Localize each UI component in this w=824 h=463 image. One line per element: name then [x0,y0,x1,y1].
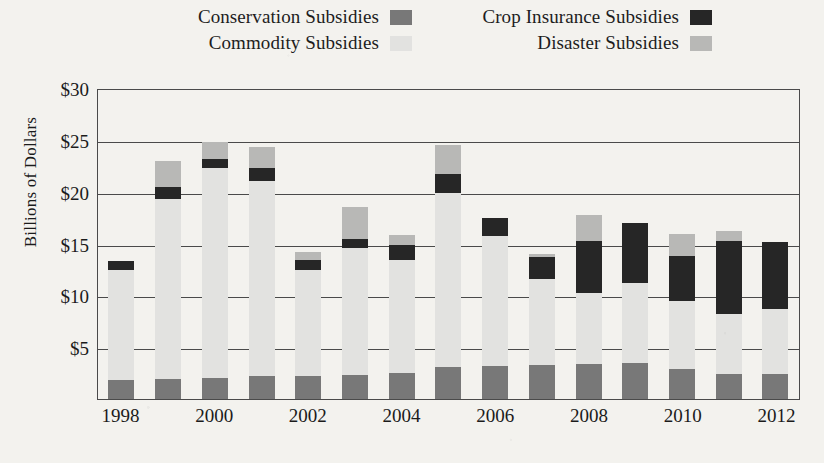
bar-2005 [435,145,461,399]
x-tick-label: 2006 [452,405,538,427]
bar-segment-2010-crop-insurance-subsidies [669,256,695,301]
bar-2011 [716,231,742,399]
bar-segment-2001-conservation-subsidies [249,376,275,399]
bar-segment-1999-disaster-subsidies [155,161,181,187]
legend-swatch-commodity [390,36,412,51]
bar-segment-2007-conservation-subsidies [529,365,555,399]
x-tick-2000: 2000 [201,405,227,435]
bar-segment-2008-crop-insurance-subsidies [576,241,602,293]
legend-item-conservation: Conservation Subsidies [112,6,412,28]
stacked-bar-chart: Conservation Subsidies Crop Insurance Su… [0,0,824,463]
bar-segment-2003-conservation-subsidies [342,375,368,399]
bar-segment-1999-crop-insurance-subsidies [155,187,181,199]
x-tick-label: 2010 [640,405,726,427]
bar-segment-2005-disaster-subsidies [435,145,461,174]
bar-segment-2010-commodity-subsidies [669,301,695,369]
bar-1999 [155,161,181,399]
bar-segment-2012-conservation-subsidies [762,374,788,399]
bar-segment-1998-commodity-subsidies [108,270,134,380]
bar-segment-2012-crop-insurance-subsidies [762,242,788,308]
bar-segment-2000-crop-insurance-subsidies [202,159,228,168]
bar-2006 [482,218,508,399]
x-tick-1998: 1998 [107,405,133,435]
bar-segment-2011-disaster-subsidies [716,231,742,241]
y-tick-label-10: $10 [29,287,89,306]
bar-segment-2000-commodity-subsidies [202,168,228,378]
x-tick-label: 2000 [171,405,257,427]
bar-segment-1999-conservation-subsidies [155,379,181,399]
bar-segment-2003-commodity-subsidies [342,248,368,376]
x-tick-2008: 2008 [576,405,602,435]
bar-segment-2008-disaster-subsidies [576,215,602,242]
bar-2012 [762,242,788,399]
bar-segment-2002-conservation-subsidies [295,376,321,399]
bar-segment-2011-crop-insurance-subsidies [716,241,742,314]
bar-segment-2011-commodity-subsidies [716,314,742,374]
bar-segment-2006-crop-insurance-subsidies [482,218,508,237]
y-tick-label-25: $25 [29,132,89,151]
legend-row-2: Commodity Subsidies Disaster Subsidies [0,30,824,56]
bar-segment-2008-commodity-subsidies [576,293,602,363]
bar-segment-2012-commodity-subsidies [762,309,788,374]
bar-2004 [389,235,415,399]
legend-label-crop-insurance: Crop Insurance Subsidies [482,6,679,28]
bar-2009 [622,223,648,399]
bar-1998 [108,261,134,399]
legend-label-commodity: Commodity Subsidies [209,32,379,54]
bar-segment-2009-crop-insurance-subsidies [622,223,648,283]
bar-segment-2008-conservation-subsidies [576,364,602,399]
bar-segment-2004-commodity-subsidies [389,260,415,373]
bar-segment-2000-disaster-subsidies [202,142,228,159]
bar-segment-2001-commodity-subsidies [249,181,275,376]
bar-segment-2002-disaster-subsidies [295,252,321,260]
x-tick-2004: 2004 [389,405,415,435]
bar-segment-2001-crop-insurance-subsidies [249,168,275,181]
x-tick-2012: 2012 [763,405,789,435]
bar-segment-2002-crop-insurance-subsidies [295,260,321,270]
x-tick-label: 2004 [359,405,445,427]
bar-segment-2004-crop-insurance-subsidies [389,245,415,261]
bar-segment-2006-conservation-subsidies [482,366,508,399]
y-tick-label-5: $5 [29,339,89,358]
bar-segment-2011-conservation-subsidies [716,374,742,399]
y-axis-ticks: $5$10$15$20$25$30 [27,0,89,463]
bar-segment-2003-disaster-subsidies [342,207,368,239]
bar-2001 [249,147,275,399]
x-tick-label: 2012 [733,405,819,427]
bar-2000 [202,142,228,399]
bar-segment-2003-crop-insurance-subsidies [342,239,368,247]
x-tick-label: 2008 [546,405,632,427]
x-tick-2002: 2002 [295,405,321,435]
bar-segment-2009-commodity-subsidies [622,283,648,363]
x-tick-2006: 2006 [482,405,508,435]
plot-area [97,89,800,400]
x-tick-label: 1998 [77,405,163,427]
bar-segment-2005-commodity-subsidies [435,193,461,367]
legend-label-conservation: Conservation Subsidies [198,6,379,28]
bar-2008 [576,215,602,400]
chart-legend: Conservation Subsidies Crop Insurance Su… [0,4,824,60]
legend-row-1: Conservation Subsidies Crop Insurance Su… [0,4,824,30]
y-tick-label-20: $20 [29,184,89,203]
bar-segment-2007-crop-insurance-subsidies [529,257,555,279]
y-tick-label-15: $15 [29,236,89,255]
bar-segment-2005-conservation-subsidies [435,367,461,399]
bar-segment-2007-commodity-subsidies [529,279,555,365]
bar-segment-1998-conservation-subsidies [108,380,134,399]
bar-group [98,90,799,399]
bar-segment-2004-disaster-subsidies [389,235,415,244]
legend-item-commodity: Commodity Subsidies [112,32,412,54]
bar-2003 [342,207,368,399]
legend-item-disaster: Disaster Subsidies [412,32,712,54]
bar-segment-2004-conservation-subsidies [389,373,415,399]
x-tick-label: 2002 [265,405,351,427]
bar-segment-2010-conservation-subsidies [669,369,695,399]
bar-segment-2006-commodity-subsidies [482,236,508,366]
legend-label-disaster: Disaster Subsidies [537,32,679,54]
legend-swatch-disaster [690,36,712,51]
bar-segment-2010-disaster-subsidies [669,234,695,256]
x-axis-ticks: 19982000200220042006200820102012 [97,405,800,435]
x-tick-2010: 2010 [670,405,696,435]
bar-segment-2009-conservation-subsidies [622,363,648,399]
legend-swatch-crop-insurance [690,10,712,25]
